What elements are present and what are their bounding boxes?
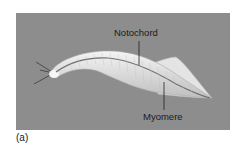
figure-caption: (a) — [16, 133, 28, 143]
myomere-label: Myomere — [143, 112, 183, 122]
lancelet-illustration — [0, 0, 239, 147]
notochord-label: Notochord — [114, 28, 158, 38]
